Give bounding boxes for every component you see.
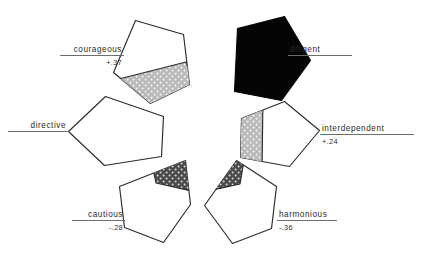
value-interdependent: +.24 xyxy=(322,137,338,146)
label-cautious: cautious xyxy=(88,210,123,219)
node-harmonious: harmonious -.36 xyxy=(199,155,337,244)
pentagon-diligent xyxy=(235,17,311,101)
label-courageous: courageous xyxy=(74,45,122,54)
node-diligent: diligent xyxy=(235,17,353,101)
node-cautious: cautious -.28 xyxy=(72,155,196,243)
node-courageous: courageous +.37 xyxy=(60,21,199,113)
label-interdependent: interdependent xyxy=(322,124,385,133)
node-directive: directive xyxy=(8,97,164,166)
value-cautious: -.28 xyxy=(109,223,123,232)
label-directive: directive xyxy=(31,121,66,130)
radial-pentagon-diagram: courageous +.37 diligent directive inter… xyxy=(0,0,421,269)
value-courageous: +.37 xyxy=(106,58,122,67)
node-interdependent: interdependent +.24 xyxy=(232,95,414,170)
label-diligent: diligent xyxy=(290,45,321,54)
pentagon-directive xyxy=(69,97,164,166)
label-harmonious: harmonious xyxy=(279,210,327,219)
wedge-interdependent xyxy=(232,95,263,170)
value-harmonious: -.36 xyxy=(279,223,293,232)
